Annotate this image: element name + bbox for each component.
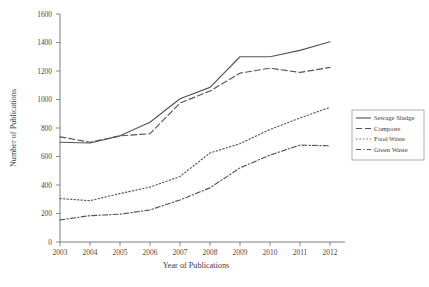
y-tick-label: 600 [41,152,52,161]
data-series-group [60,42,330,220]
x-tick-label: 2006 [143,248,158,257]
series-line-food-waste [60,107,330,200]
legend-label: Green Waste [374,146,408,153]
y-axis-title: Number of Publications [9,89,18,167]
x-tick-label: 2004 [83,248,98,257]
y-axis-ticks: 02004006008001000120014001600 [37,10,60,247]
x-tick-label: 2010 [263,248,278,257]
series-line-composts [60,67,330,142]
series-line-green-waste [60,145,330,220]
chart-legend: Sewage SludgeCompostsFood WasteGreen Was… [352,110,424,160]
y-tick-label: 1600 [37,10,52,19]
line-chart: 02004006008001000120014001600 Number of … [0,0,429,287]
y-tick-label: 200 [41,209,52,218]
x-axis: 2003200420052006200720082009201020112012… [53,242,345,270]
legend-label: Sewage Sludge [374,114,415,121]
chart-figure: 02004006008001000120014001600 Number of … [0,0,429,287]
x-tick-label: 2012 [323,248,338,257]
x-tick-label: 2003 [53,248,68,257]
x-tick-label: 2008 [203,248,218,257]
y-tick-label: 800 [41,124,52,133]
x-tick-label: 2007 [173,248,188,257]
y-tick-label: 1400 [37,38,52,47]
y-tick-label: 400 [41,181,52,190]
y-tick-label: 1000 [37,95,52,104]
legend-label: Food Waste [374,135,405,142]
x-axis-title: Year of Publications [163,261,229,270]
x-axis-ticks: 2003200420052006200720082009201020112012 [53,242,338,257]
x-tick-label: 2009 [233,248,248,257]
x-tick-label: 2005 [113,248,128,257]
x-tick-label: 2011 [293,248,308,257]
y-axis: 02004006008001000120014001600 Number of … [9,10,60,247]
y-tick-label: 1200 [37,67,52,76]
series-line-sewage-sludge [60,42,330,143]
legend-label: Composts [374,125,401,132]
y-tick-label: 0 [48,238,52,247]
